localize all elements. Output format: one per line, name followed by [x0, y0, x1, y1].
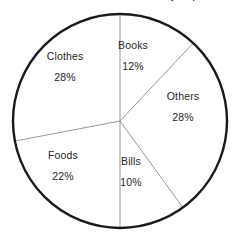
pie-chart-screenshot: Monthly expenses Books 12% Others 28% Bi… — [0, 0, 236, 238]
slice-label-others-value: 28% — [152, 111, 214, 123]
slice-label-books-value: 12% — [104, 60, 162, 72]
slice-label-clothes-name: Clothes — [47, 50, 84, 62]
slice-label-books-name: Books — [118, 39, 148, 51]
slice-label-others-name: Others — [167, 90, 199, 102]
slice-label-clothes-value: 28% — [31, 71, 99, 83]
slice-label-foods-name: Foods — [48, 149, 78, 161]
slice-label-bills-name: Bills — [121, 155, 141, 167]
slice-label-clothes: Clothes 28% — [31, 50, 99, 83]
slice-label-books: Books 12% — [104, 39, 162, 72]
slice-label-bills: Bills 10% — [104, 155, 158, 188]
slice-label-others: Others 28% — [152, 90, 214, 123]
slice-label-foods: Foods 22% — [33, 149, 93, 182]
slice-label-bills-value: 10% — [104, 176, 158, 188]
slice-label-foods-value: 22% — [33, 170, 93, 182]
